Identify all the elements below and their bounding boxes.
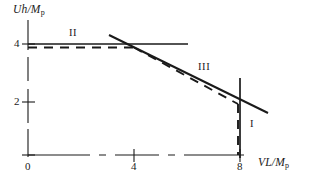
y-axis-title: Uh/Mp [13,4,45,17]
x-tick-label-8: 8 [237,161,243,172]
mechanism-bound-group [28,35,268,158]
y-tick-label-4: 4 [14,38,20,49]
x-tick-label-0: 0 [25,161,31,172]
y-axis-title-subscript: p [41,8,45,17]
region-label-ii: II [69,28,77,39]
x-axis-title-subscript: p [285,161,289,170]
y-axis-title-text: Uh/M [13,3,41,15]
region-label-iii: III [198,62,210,73]
y-tick-label-2: 2 [14,96,20,107]
x-axis-title-text: VL/M [258,156,285,168]
x-axis-title: VL/Mp [258,157,289,170]
region-label-i: I [250,119,254,130]
mechanism-III-line [109,35,268,113]
yield-interaction-figure: Uh/Mp VL/Mp 4 2 0 4 8 II III I [0,0,309,187]
axis-group [28,20,266,157]
x-tick-label-4: 4 [131,161,137,172]
